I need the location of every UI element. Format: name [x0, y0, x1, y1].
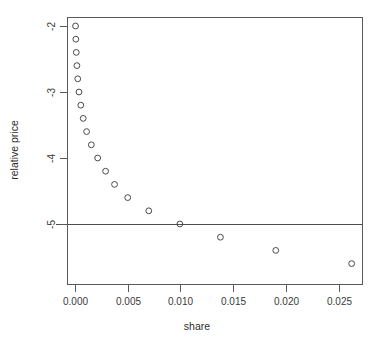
data-point — [146, 208, 152, 214]
data-point — [125, 195, 131, 201]
data-point — [74, 63, 80, 69]
x-tick-label: 0.000 — [63, 296, 88, 307]
data-point — [73, 36, 79, 42]
y-tick-label: -2 — [46, 22, 57, 31]
data-point — [273, 248, 279, 254]
data-point — [73, 23, 79, 29]
data-point — [76, 89, 82, 95]
x-tick-label: 0.015 — [221, 296, 246, 307]
y-tick-label: -5 — [46, 220, 57, 229]
x-tick-label: 0.010 — [168, 296, 193, 307]
data-point — [218, 234, 224, 240]
plot-frame — [68, 18, 363, 285]
x-axis-tick-labels: 0.0000.0050.0100.0150.0200.025 — [63, 296, 352, 307]
data-point — [95, 155, 101, 161]
data-point — [103, 168, 109, 174]
data-point — [80, 116, 86, 122]
data-point — [75, 76, 81, 82]
data-point — [88, 142, 94, 148]
y-axis-tick-labels: -2-3-4-5 — [46, 22, 57, 229]
y-axis-title: relative price — [8, 120, 20, 180]
y-tick-label: -4 — [46, 154, 57, 163]
y-tick-label: -3 — [46, 88, 57, 97]
data-point — [349, 261, 355, 267]
data-point — [112, 182, 118, 188]
x-tick-label: 0.025 — [327, 296, 352, 307]
data-point-series — [73, 23, 355, 266]
x-tick-label: 0.020 — [274, 296, 299, 307]
x-axis-title: share — [184, 320, 210, 332]
data-point — [73, 50, 79, 56]
y-axis-tick-marks — [60, 27, 68, 225]
plot-canvas: -2-3-4-5 0.0000.0050.0100.0150.0200.025 … — [0, 0, 383, 347]
x-axis-tick-marks — [76, 285, 340, 293]
scatter-plot-figure: -2-3-4-5 0.0000.0050.0100.0150.0200.025 … — [0, 0, 383, 347]
x-tick-label: 0.005 — [116, 296, 141, 307]
data-point — [84, 129, 90, 135]
data-point — [78, 102, 84, 108]
